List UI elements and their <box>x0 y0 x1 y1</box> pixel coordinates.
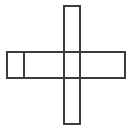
cross-figure <box>0 0 134 130</box>
canvas-background <box>0 0 134 130</box>
diagram-canvas <box>0 0 134 130</box>
